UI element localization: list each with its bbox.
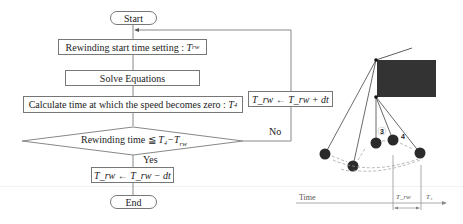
timeline-marker-t4: T₄ <box>426 193 432 201</box>
timeline-axis-label: Time <box>299 193 316 202</box>
pendulum-block <box>377 60 436 97</box>
timeline-marker-trw: T_rw <box>396 193 411 201</box>
ball-5 <box>415 148 426 159</box>
ball-1 <box>320 149 331 160</box>
pendulum-illustration: 3 4 <box>0 0 463 224</box>
phase-label-3: 3 <box>380 128 384 135</box>
ball-4 <box>388 135 399 146</box>
ball-3 <box>371 138 382 149</box>
phase-label-4: 4 <box>401 133 405 140</box>
